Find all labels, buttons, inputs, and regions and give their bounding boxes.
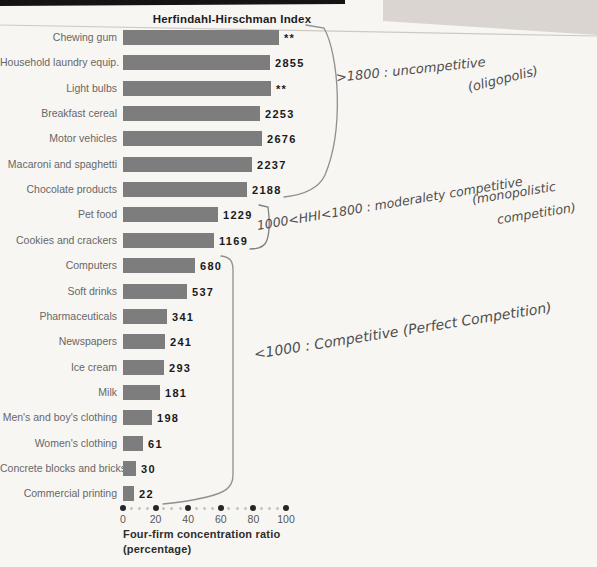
axis-minor-dot [170,507,173,510]
chart-title: Herfindahl-Hirschman Index [122,13,342,25]
bar [123,106,260,121]
bar-row: Motor vehicles2676 [0,131,597,146]
axis-minor-dot [146,507,149,510]
bar [123,385,160,400]
bar [123,309,167,324]
x-axis-title-line1: Four-firm concentration ratio [123,527,280,542]
category-label: Milk [0,385,117,400]
hhi-value-label: ** [284,30,295,46]
bar [123,233,214,248]
bar [123,55,270,70]
axis-tick-label: 100 [271,513,301,525]
category-label: Macaroni and spaghetti [0,157,117,172]
category-label: Concrete blocks and bricks [0,461,117,476]
bar-row: Milk181 [0,385,597,400]
axis-minor-dot [260,507,263,510]
handwritten-note-competition: competition) [496,200,577,227]
hhi-value-label: 537 [192,284,214,300]
hhi-value-label: 22 [139,486,154,502]
bar [123,284,187,299]
bar [123,207,218,222]
category-label: Pharmaceuticals [0,309,117,324]
bar [123,157,252,172]
category-label: Commercial printing [0,486,117,501]
bar-row: Chewing gum** [0,30,597,45]
hhi-value-label: 2237 [257,157,287,173]
bar [123,461,136,476]
axis-minor-dot [130,507,133,510]
bar [123,410,152,425]
axis-minor-dot [179,507,182,510]
hhi-value-label: 1169 [219,233,248,249]
hhi-value-label: 293 [169,360,191,376]
axis-minor-dot [195,507,198,510]
bar-row: Concrete blocks and bricks30 [0,461,597,476]
bar [123,360,164,375]
category-label: Women's clothing [0,436,117,451]
axis-major-dot [185,505,191,511]
bar-row: Commercial printing22 [0,486,597,501]
axis-tick-label: 20 [141,513,171,525]
axis-tick-label: 40 [173,513,203,525]
axis-major-dot [250,505,256,511]
bar [123,436,143,451]
category-label: Breakfast cereal [0,106,117,121]
axis-tick-label: 0 [108,513,138,525]
category-label: Computers [0,258,117,273]
bar-row: Macaroni and spaghetti2237 [0,157,597,172]
hhi-value-label: 341 [172,309,194,325]
category-label: Chocolate products [0,182,117,197]
bar-row: Soft drinks537 [0,284,597,299]
axis-major-dot [153,505,159,511]
bar-row: Men's and boy's clothing198 [0,410,597,425]
bar-row: Household laundry equip.2855 [0,55,597,70]
axis-minor-dot [227,507,230,510]
hhi-value-label: 181 [165,385,187,401]
axis-minor-dot [236,507,239,510]
bar-row: Breakfast cereal2253 [0,106,597,121]
axis-major-dot [283,505,289,511]
top-black-bar [0,0,345,6]
bar [123,486,134,501]
hhi-value-label: 2253 [265,106,295,122]
bar-row: Cookies and crackers1169 [0,233,597,248]
bar [123,30,279,45]
hhi-value-label: ** [276,81,287,97]
axis-tick-label: 60 [206,513,236,525]
hhi-value-label: 198 [157,410,179,426]
category-label: Motor vehicles [0,131,117,146]
category-label: Newspapers [0,334,117,349]
hhi-value-label: 2676 [267,131,297,147]
category-label: Men's and boy's clothing [0,410,117,425]
category-label: Soft drinks [0,284,117,299]
axis-major-dot [120,505,126,511]
bar [123,81,271,96]
bar [123,131,262,146]
bar-row: Ice cream293 [0,360,597,375]
hhi-value-label: 2188 [252,182,282,198]
bar [123,182,247,197]
axis-tick-label: 80 [238,513,268,525]
axis-minor-dot [138,507,141,510]
scanned-textbook-page: Herfindahl-Hirschman Index Chewing gum**… [0,0,597,567]
category-label: Ice cream [0,360,117,375]
x-axis-title: Four-firm concentration ratio (percentag… [123,527,280,558]
axis-minor-dot [203,507,206,510]
axis-minor-dot [268,507,271,510]
hhi-value-label: 61 [148,436,163,452]
category-label: Household laundry equip. [0,55,117,70]
category-label: Chewing gum [0,30,117,45]
axis-minor-dot [244,507,247,510]
hhi-value-label: 2855 [275,55,305,71]
bar-row: Women's clothing61 [0,436,597,451]
bar-row: Computers680 [0,258,597,273]
hhi-value-label: 30 [141,461,156,477]
category-label: Pet food [0,207,117,222]
hhi-value-label: 1229 [223,207,253,223]
axis-major-dot [218,505,224,511]
x-axis-title-line2: (percentage) [123,542,280,557]
bar [123,258,195,273]
hhi-value-label: 680 [200,258,222,274]
axis-minor-dot [211,507,214,510]
category-label: Light bulbs [0,81,117,96]
